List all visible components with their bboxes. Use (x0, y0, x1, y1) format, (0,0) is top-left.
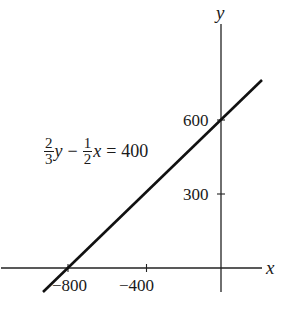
x-tick-label-neg800: −800 (52, 277, 87, 294)
y-axis-label: y (216, 3, 224, 22)
equation-minus: − (68, 141, 78, 162)
fraction-one-half: 1 2 (83, 136, 93, 167)
equation-var-x: x (93, 141, 101, 162)
fraction-numerator: 1 (83, 136, 93, 152)
fraction-denominator: 3 (44, 152, 54, 167)
fraction-denominator: 2 (83, 152, 93, 167)
equation-rhs: 400 (121, 141, 148, 162)
equation-line (43, 80, 262, 292)
fraction-numerator: 2 (44, 136, 54, 152)
x-tick-label-neg400: −400 (119, 277, 154, 294)
equation-equals: = (106, 141, 116, 162)
fraction-two-thirds: 2 3 (44, 136, 54, 167)
chart-canvas: y x −800 −400 300 600 2 3 y − 1 2 x = 40… (0, 0, 294, 309)
x-axis-label: x (266, 258, 274, 277)
y-tick-label-300: 300 (183, 186, 209, 203)
equation-var-y: y (55, 141, 63, 162)
y-tick-label-600: 600 (183, 112, 209, 129)
equation-annotation: 2 3 y − 1 2 x = 400 (44, 136, 148, 167)
